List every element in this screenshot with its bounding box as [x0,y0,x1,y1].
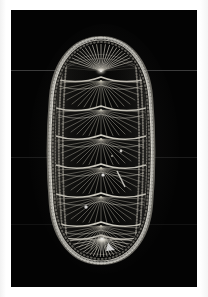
chiton-specimen [45,35,157,266]
valve-region-tail [58,234,143,264]
photo-field [11,10,197,287]
valve-region-2 [58,72,143,97]
valve-region-3 [58,100,143,125]
valve-region-5 [58,155,143,180]
valve-region-6 [58,183,143,208]
specimen-plate-page: Dorsal view of an elongate oval chiton (… [0,0,208,297]
valve-region-7 [58,211,143,234]
valve-region-head [58,40,143,68]
valve-region-4 [58,127,143,152]
specimen-description: Dorsal view of an elongate oval chiton (… [0,0,1,1]
